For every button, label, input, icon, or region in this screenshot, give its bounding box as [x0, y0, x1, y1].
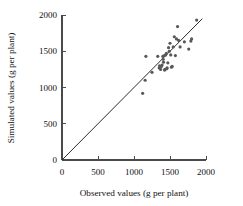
- data-point: [144, 79, 147, 82]
- y-tick-label: 0: [53, 155, 58, 165]
- data-points-layer: [141, 18, 198, 94]
- y-tick-label: 2000: [39, 10, 58, 20]
- data-point: [190, 37, 193, 40]
- x-tick-marks: [62, 156, 206, 160]
- data-point: [187, 47, 190, 50]
- data-point: [167, 46, 170, 49]
- data-point: [171, 65, 174, 68]
- x-tick-label: 0: [60, 167, 65, 177]
- data-point: [156, 55, 159, 58]
- data-point: [159, 68, 162, 71]
- x-tick-label: 2000: [197, 167, 216, 177]
- x-axis-title: Observed values (g per plant): [80, 188, 189, 198]
- identity-reference-line: [62, 19, 202, 160]
- y-tick-label: 1000: [39, 83, 58, 93]
- chart-canvas: 0 500 1000 1500 2000 0 500 1000 1500 200…: [0, 0, 243, 206]
- data-point: [174, 54, 177, 57]
- data-point: [178, 45, 181, 48]
- scatter-plot-figure: 0 500 1000 1500 2000 0 500 1000 1500 200…: [0, 0, 243, 206]
- data-point: [166, 61, 169, 64]
- data-point: [183, 40, 186, 43]
- data-point: [177, 39, 180, 42]
- data-point: [150, 71, 153, 74]
- data-point: [166, 66, 169, 69]
- data-point: [168, 50, 171, 53]
- data-point: [141, 92, 144, 95]
- data-point: [169, 53, 172, 56]
- y-tick-labels: 0 500 1000 1500 2000: [39, 10, 58, 165]
- y-axis-title: Simulated values (g per plant): [6, 33, 16, 144]
- x-tick-label: 500: [91, 167, 105, 177]
- data-point: [195, 18, 198, 21]
- y-tick-marks: [62, 15, 66, 160]
- data-point: [172, 45, 175, 48]
- x-tick-label: 1500: [161, 167, 180, 177]
- x-tick-labels: 0 500 1000 1500 2000: [60, 167, 216, 177]
- data-point: [168, 42, 171, 45]
- data-point: [160, 63, 163, 66]
- x-tick-label: 1000: [125, 167, 144, 177]
- data-point: [165, 52, 168, 55]
- data-point: [176, 25, 179, 28]
- y-tick-label: 500: [44, 119, 58, 129]
- y-tick-label: 1500: [39, 46, 58, 56]
- data-point: [144, 55, 147, 58]
- data-point: [162, 58, 165, 61]
- data-point: [162, 61, 165, 64]
